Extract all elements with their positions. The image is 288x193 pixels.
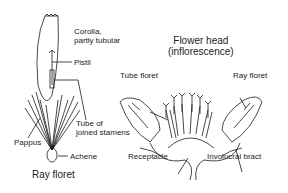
flower-head-illustration [120,93,262,180]
label-corolla: Corolla, partly tubular [74,27,120,45]
label-achene: Achene [70,152,97,161]
label-tube-line1: Tube of [76,119,130,128]
label-receptacle: Receptacle [128,152,168,161]
label-involucral-bract: Involucral bract [207,152,261,161]
label-pistil: Pistil [74,58,91,67]
title-flower-head: Flower head (inflorescence) [168,35,234,57]
label-tube-line2: joined stamens [76,128,130,137]
title-flower-head-line1: Flower head [168,35,234,46]
label-tube-floret: Tube floret [120,71,158,80]
title-flower-head-line2: (inflorescence) [168,46,234,57]
flower-diagram [0,0,288,193]
title-ray-floret: Ray floret [32,169,75,180]
label-pappus: Pappus [14,138,41,147]
label-ray-floret-right: Ray floret [233,71,267,80]
label-corolla-line1: Corolla, [74,27,120,36]
label-corolla-line2: partly tubular [74,36,120,45]
label-tube-of-stamens: Tube of joined stamens [76,119,130,137]
